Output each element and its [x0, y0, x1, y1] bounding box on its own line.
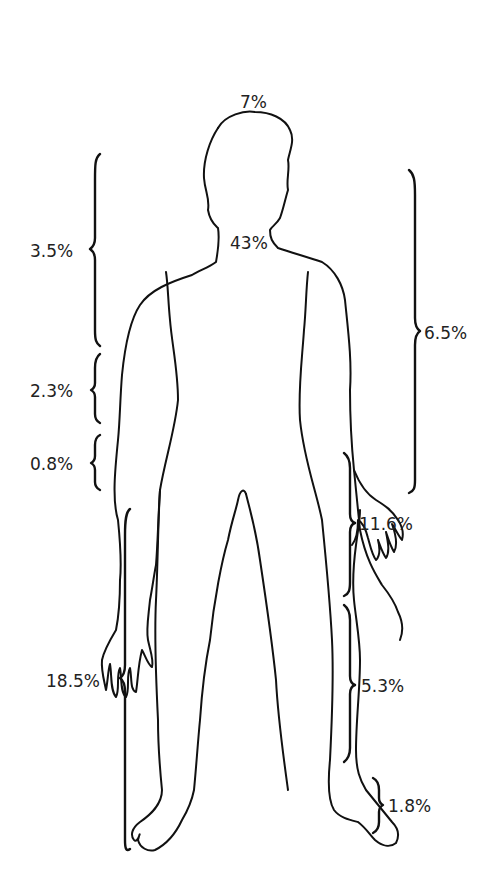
brace-entire-arm [409, 170, 420, 493]
label-entire-arm: 6.5% [424, 323, 467, 343]
brace-thigh [344, 453, 355, 596]
label-forearm: 2.3% [30, 381, 73, 401]
brace-forearm [91, 354, 100, 423]
label-lower-leg: 5.3% [361, 676, 404, 696]
brace-foot [373, 778, 383, 833]
brace-hand [91, 435, 100, 490]
label-thigh: 11.6% [359, 514, 413, 534]
brace-entire-leg [120, 509, 130, 850]
label-head: 7% [240, 92, 267, 112]
label-entire-leg: 18.5% [46, 671, 100, 691]
brace-lower-leg [344, 605, 355, 762]
label-hand: 0.8% [30, 454, 73, 474]
label-foot: 1.8% [388, 796, 431, 816]
label-trunk: 43% [230, 233, 268, 253]
braces-layer: 7% 43% 3.5% 2.3% 0.8% 6.5% 11.6% 5.3% 18… [0, 0, 504, 877]
brace-upper-arm [90, 154, 100, 346]
label-upper-arm: 3.5% [30, 241, 73, 261]
